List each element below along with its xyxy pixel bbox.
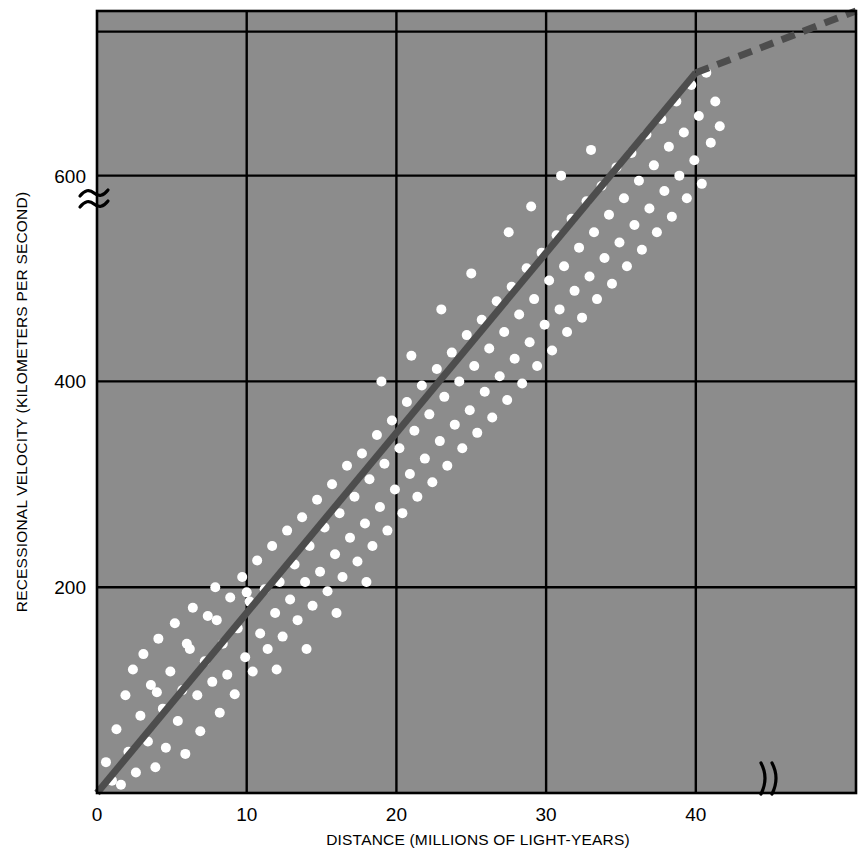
data-point bbox=[504, 227, 514, 237]
data-point bbox=[634, 176, 644, 186]
data-point bbox=[116, 780, 126, 790]
data-point bbox=[502, 395, 512, 405]
data-point bbox=[263, 644, 273, 654]
data-point bbox=[526, 202, 536, 212]
data-point bbox=[607, 279, 617, 289]
plot-panel-background bbox=[97, 11, 856, 793]
data-point bbox=[532, 361, 542, 371]
data-point bbox=[315, 567, 325, 577]
x-tick-label: 40 bbox=[685, 804, 706, 825]
data-point bbox=[387, 416, 397, 426]
data-point bbox=[120, 690, 130, 700]
data-point bbox=[585, 271, 595, 281]
data-point bbox=[352, 556, 362, 566]
data-point bbox=[188, 603, 198, 613]
data-point bbox=[101, 757, 111, 767]
data-point bbox=[652, 227, 662, 237]
data-point bbox=[382, 526, 392, 536]
data-point bbox=[664, 142, 674, 152]
data-point bbox=[644, 204, 654, 214]
data-point bbox=[367, 541, 377, 551]
data-point bbox=[499, 327, 509, 337]
data-point bbox=[272, 665, 282, 675]
data-point bbox=[180, 749, 190, 759]
data-point bbox=[192, 690, 202, 700]
data-point bbox=[397, 508, 407, 518]
data-point bbox=[372, 430, 382, 440]
hubble-diagram-figure: 010203040 200400600 DISTANCE (MILLIONS O… bbox=[0, 0, 866, 861]
y-tick-label: 600 bbox=[54, 166, 86, 187]
data-point bbox=[165, 667, 175, 677]
data-point bbox=[556, 171, 566, 181]
data-point bbox=[495, 371, 505, 381]
data-point bbox=[161, 743, 171, 753]
data-point bbox=[424, 409, 434, 419]
y-tick-label: 200 bbox=[54, 577, 86, 598]
data-point bbox=[207, 677, 217, 687]
data-point bbox=[364, 474, 374, 484]
data-point bbox=[697, 179, 707, 189]
data-point bbox=[525, 337, 535, 347]
data-point bbox=[267, 541, 277, 551]
data-point bbox=[252, 555, 262, 565]
data-point bbox=[427, 477, 437, 487]
data-point bbox=[420, 454, 430, 464]
data-point bbox=[390, 484, 400, 494]
data-point bbox=[349, 492, 359, 502]
x-tick-label: 20 bbox=[386, 804, 407, 825]
data-point bbox=[152, 687, 162, 697]
data-point bbox=[338, 572, 348, 582]
data-point bbox=[544, 276, 554, 286]
data-point bbox=[173, 716, 183, 726]
data-point bbox=[240, 652, 250, 662]
data-point bbox=[210, 582, 220, 592]
data-point bbox=[293, 615, 303, 625]
data-point bbox=[285, 595, 295, 605]
data-point bbox=[629, 220, 639, 230]
data-point bbox=[409, 426, 419, 436]
data-point bbox=[439, 392, 449, 402]
data-point bbox=[649, 160, 659, 170]
data-point bbox=[182, 639, 192, 649]
data-point bbox=[694, 111, 704, 121]
y-axis-title: RECESSIONAL VELOCITY (KILOMETERS PER SEC… bbox=[13, 192, 30, 613]
data-point bbox=[406, 351, 416, 361]
x-tick-label: 0 bbox=[92, 804, 103, 825]
data-point bbox=[514, 310, 524, 320]
x-tick-label: 30 bbox=[536, 804, 557, 825]
data-point bbox=[517, 378, 527, 388]
data-point bbox=[357, 448, 367, 458]
data-point bbox=[312, 495, 322, 505]
data-point bbox=[379, 459, 389, 469]
data-point bbox=[487, 412, 497, 422]
data-point bbox=[128, 665, 138, 675]
data-point bbox=[150, 762, 160, 772]
data-point bbox=[710, 97, 720, 107]
data-point bbox=[215, 708, 225, 718]
data-point bbox=[135, 711, 145, 721]
data-point bbox=[375, 502, 385, 512]
data-point bbox=[360, 518, 370, 528]
data-point bbox=[405, 469, 415, 479]
data-point bbox=[472, 428, 482, 438]
data-point bbox=[342, 461, 352, 471]
data-point bbox=[592, 294, 602, 304]
data-point bbox=[138, 649, 148, 659]
data-point bbox=[222, 670, 232, 680]
data-point bbox=[442, 461, 452, 471]
data-point bbox=[540, 320, 550, 330]
data-point bbox=[278, 632, 288, 642]
data-point bbox=[255, 629, 265, 639]
data-point bbox=[435, 436, 445, 446]
data-point bbox=[402, 397, 412, 407]
data-point bbox=[302, 644, 312, 654]
data-point bbox=[562, 327, 572, 337]
data-point bbox=[282, 526, 292, 536]
y-tick-label: 400 bbox=[54, 371, 86, 392]
data-point bbox=[332, 608, 342, 618]
data-point bbox=[345, 533, 355, 543]
data-point bbox=[457, 443, 467, 453]
data-point bbox=[131, 767, 141, 777]
data-point bbox=[466, 268, 476, 278]
data-point bbox=[689, 155, 699, 165]
